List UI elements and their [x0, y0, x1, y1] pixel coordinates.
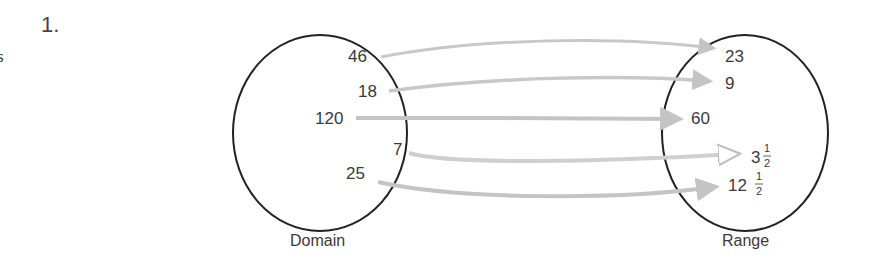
range-value: 60	[691, 109, 710, 128]
svg-text:1: 1	[764, 142, 770, 154]
svg-text:2: 2	[756, 185, 762, 197]
domain-caption: Domain	[290, 232, 345, 249]
svg-text:3: 3	[751, 148, 760, 167]
mapping-arrows	[356, 41, 736, 197]
range-value-mixed-fraction: 12 1 2	[728, 170, 763, 197]
arrow-46-23	[381, 41, 712, 57]
range-caption: Range	[722, 232, 769, 249]
domain-value: 25	[346, 164, 365, 183]
arrow-7-3half	[409, 153, 736, 161]
arrow-18-9	[389, 78, 708, 91]
domain-value: 120	[315, 109, 343, 128]
domain-value: 7	[393, 140, 402, 159]
svg-text:2: 2	[764, 157, 770, 169]
range-value-mixed-fraction: 3 1 2	[751, 142, 771, 169]
domain-value: 46	[348, 47, 367, 66]
domain-circle	[233, 35, 407, 231]
range-value: 9	[725, 74, 734, 93]
domain-value: 18	[358, 82, 377, 101]
range-value: 23	[725, 47, 744, 66]
svg-text:1: 1	[756, 170, 762, 182]
arrow-25-12half	[378, 182, 714, 196]
svg-text:12: 12	[728, 176, 747, 195]
range-circle	[662, 35, 828, 231]
mapping-diagram: 46 18 120 7 25 23 9 60 3 1 2 12 1 2 Doma…	[0, 0, 877, 269]
